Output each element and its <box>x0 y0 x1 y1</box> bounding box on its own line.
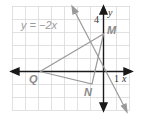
point-label-n: N <box>84 86 93 98</box>
coordinate-plane-diagram: y = −2x M N Q 4 y 1 x <box>0 0 143 117</box>
equation-label: y = −2x <box>20 19 58 31</box>
triangle-QMN <box>40 34 104 84</box>
y-axis-down-arrow-icon <box>100 103 107 111</box>
y-axis-label: y <box>107 7 113 18</box>
point-label-m: M <box>107 24 117 36</box>
x-axis-label: x <box>121 73 127 84</box>
x-tick-label-1: 1 <box>114 73 119 84</box>
point-label-q: Q <box>29 73 38 85</box>
line-y-equals-neg-2x <box>72 6 127 112</box>
y-axis-up-arrow-icon <box>100 6 107 14</box>
y-tick-label-4: 4 <box>94 14 99 25</box>
